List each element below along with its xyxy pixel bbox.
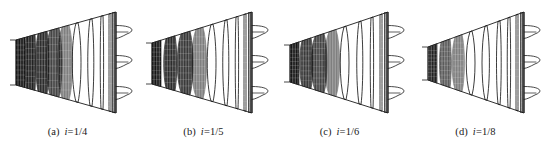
duct-diagram-d bbox=[408, 0, 543, 125]
duct-panel-b: (b) i=1/5 bbox=[136, 0, 271, 157]
station-band bbox=[177, 31, 193, 95]
caption-value: 1/5 bbox=[210, 126, 224, 137]
caption-tag: (b) bbox=[183, 126, 196, 137]
outlet-profile-group bbox=[388, 26, 404, 100]
duct-diagram-a bbox=[0, 0, 135, 125]
caption-tag: (c) bbox=[320, 126, 332, 137]
station-band bbox=[58, 25, 73, 100]
caption-tag: (a) bbox=[48, 126, 60, 137]
station-band bbox=[25, 35, 35, 91]
caption-value: 1/8 bbox=[482, 126, 496, 137]
outlet-profile-group bbox=[524, 26, 540, 100]
station-band bbox=[290, 42, 299, 85]
duct-panel-a: (a) i=1/4 bbox=[0, 0, 135, 157]
caption-value: 1/6 bbox=[346, 126, 360, 137]
station-band bbox=[300, 38, 313, 89]
panel-caption-b: (b) i=1/5 bbox=[136, 126, 271, 137]
outlet-profile-group bbox=[116, 26, 132, 100]
station-band bbox=[152, 40, 161, 86]
duct-diagram-b bbox=[136, 0, 271, 125]
panel-caption-c: (c) i=1/6 bbox=[272, 126, 407, 137]
panel-caption-a: (a) i=1/4 bbox=[0, 126, 135, 137]
station-band bbox=[325, 30, 340, 97]
station-band bbox=[452, 35, 464, 92]
figure-root: (a) i=1/4(b) i=1/5(c) i=1/6(d) i=1/8 bbox=[0, 0, 543, 157]
duct-diagram-c bbox=[272, 0, 407, 125]
duct-panel-d: (d) i=1/8 bbox=[408, 0, 543, 157]
caption-tag: (d) bbox=[455, 126, 468, 137]
caption-value: 1/4 bbox=[74, 126, 88, 137]
station-band bbox=[440, 39, 452, 88]
panel-caption-d: (d) i=1/8 bbox=[408, 126, 543, 137]
outlet-profile-group bbox=[252, 26, 268, 100]
duct-panel-c: (c) i=1/6 bbox=[272, 0, 407, 157]
station-band bbox=[428, 44, 437, 83]
station-band bbox=[192, 27, 207, 99]
